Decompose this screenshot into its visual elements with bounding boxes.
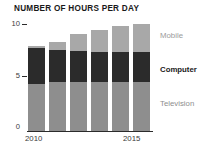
bar-2015[interactable] — [133, 24, 150, 132]
bar-segment-mobile-2015 — [133, 24, 150, 52]
legend-item-computer: Computer — [160, 65, 197, 74]
plot-area — [28, 20, 152, 132]
bar-segment-mobile-2013 — [91, 30, 108, 53]
y-axis-tick-10: 10 — [0, 19, 20, 29]
bar-segment-television-2012 — [70, 82, 87, 132]
bar-segment-television-2011 — [49, 82, 66, 132]
bar-segment-television-2010 — [28, 84, 45, 132]
x-axis-tick-label-2015: 2015 — [123, 134, 140, 143]
bar-segment-computer-2012 — [70, 51, 87, 82]
x-axis-line — [27, 131, 153, 132]
bar-segment-mobile-2014 — [112, 26, 129, 52]
bar-2014[interactable] — [112, 26, 129, 132]
y-axis-tick-mark-10 — [22, 24, 27, 25]
y-axis-tick-label-5: 5 — [16, 71, 20, 80]
bar-segment-computer-2011 — [49, 50, 66, 82]
legend-item-mobile: Mobile — [160, 31, 183, 40]
chart-figure: NUMBER OF HOURS PER DAY 10 5 0 2010 2015… — [0, 0, 217, 154]
bar-2013[interactable] — [91, 30, 108, 132]
chart-title: NUMBER OF HOURS PER DAY — [14, 4, 139, 13]
bar-segment-mobile-2011 — [49, 42, 66, 51]
y-axis-tick-mark-5 — [22, 76, 27, 77]
y-axis-tick-0: 0 — [0, 122, 20, 132]
bar-2012[interactable] — [70, 34, 87, 132]
x-axis-tick-label-2010: 2010 — [25, 134, 42, 143]
y-axis-tick-5: 5 — [0, 71, 20, 81]
bar-segment-television-2013 — [91, 82, 108, 132]
bar-segment-computer-2014 — [112, 52, 129, 82]
legend-item-television: Television — [160, 99, 194, 108]
bar-2010[interactable] — [28, 46, 45, 132]
bar-segment-computer-2015 — [133, 52, 150, 82]
bar-segment-computer-2013 — [91, 52, 108, 82]
bar-segment-television-2015 — [133, 82, 150, 132]
y-axis-tick-label-10: 10 — [12, 19, 20, 28]
y-axis-tick-label-0: 0 — [16, 122, 20, 131]
bar-segment-computer-2010 — [28, 48, 45, 84]
bar-segment-mobile-2012 — [70, 34, 87, 51]
bar-segment-television-2014 — [112, 82, 129, 132]
bar-2011[interactable] — [49, 42, 66, 132]
